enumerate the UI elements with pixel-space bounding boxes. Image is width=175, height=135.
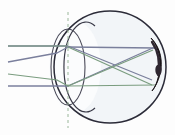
eye-ray-diagram-figure: [0, 0, 175, 135]
anterior-chamber-fill: [49, 21, 101, 113]
eye-diagram-canvas: [0, 0, 175, 135]
